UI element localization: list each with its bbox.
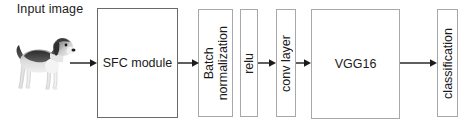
block-classification-label: classification [441, 28, 455, 99]
arrow-relu-to-conv-icon [258, 57, 277, 69]
arrow-vgg16-to-classification-icon [400, 57, 438, 69]
block-vgg16[interactable]: VGG16 [311, 9, 400, 119]
block-sfc-module-label: SFC module [103, 56, 172, 70]
diagram-canvas: Input image [0, 0, 468, 128]
arrow-conv-to-vgg16-icon [296, 57, 312, 69]
block-relu-label: relu [242, 53, 256, 74]
arrow-sfc-to-batchnorm-icon [178, 57, 200, 69]
block-vgg16-label: VGG16 [335, 57, 377, 71]
input-image-label: Input image [14, 2, 86, 17]
block-sfc-module[interactable]: SFC module [97, 8, 178, 118]
block-batch-normalization[interactable]: Batch normalization [198, 9, 233, 117]
block-conv-layer-label: conv layer [279, 35, 293, 92]
block-classification[interactable]: classification [437, 9, 458, 117]
arrow-input-to-sfc-icon [70, 57, 98, 69]
block-conv-layer[interactable]: conv layer [276, 9, 296, 117]
input-dog-image [12, 30, 76, 92]
block-relu[interactable]: relu [240, 9, 258, 117]
block-batch-normalization-label: Batch normalization [202, 26, 230, 100]
